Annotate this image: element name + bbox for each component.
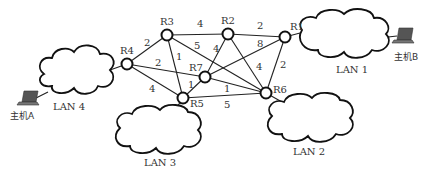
weight-r3-r5: 1 bbox=[176, 52, 182, 62]
host-label-hosta: 主机A bbox=[10, 112, 34, 121]
link-r3-r5 bbox=[167, 35, 183, 98]
link-r2-r1 bbox=[228, 34, 285, 37]
router-label-r1: R1 bbox=[290, 22, 304, 32]
router-label-r3: R3 bbox=[160, 17, 174, 27]
router-r7-icon bbox=[200, 72, 211, 83]
router-r1-icon bbox=[280, 32, 291, 43]
cloud-lan2-icon bbox=[268, 93, 353, 142]
weight-r2-r6: 4 bbox=[256, 62, 262, 72]
weight-r4-r3: 2 bbox=[144, 38, 150, 48]
cloud-lan4-icon bbox=[40, 45, 114, 93]
router-r2-icon bbox=[223, 29, 234, 40]
weight-r7-r6: 1 bbox=[224, 84, 230, 94]
weight-r3-r6: 5 bbox=[194, 41, 200, 51]
lan-label-lan2: LAN 2 bbox=[293, 147, 325, 157]
weight-r4-r5: 4 bbox=[149, 84, 155, 94]
weight-r7-r5: 1 bbox=[188, 80, 194, 90]
host-label-hostb: 主机B bbox=[394, 53, 418, 62]
weight-r2-r7: 4 bbox=[213, 44, 219, 54]
weight-r4-r7: 2 bbox=[155, 58, 161, 68]
router-label-r6: R6 bbox=[273, 85, 287, 95]
link-r2-r7 bbox=[205, 34, 228, 77]
link-lan1-hostb bbox=[388, 36, 397, 37]
network-diagram bbox=[0, 0, 428, 180]
cloud-lan1-icon bbox=[300, 9, 389, 58]
router-label-r2: R2 bbox=[221, 16, 235, 26]
router-label-r4: R4 bbox=[120, 46, 134, 56]
router-r5-icon bbox=[178, 93, 189, 104]
router-r6-icon bbox=[261, 88, 272, 99]
weight-r1-r6: 2 bbox=[280, 60, 286, 70]
weight-r3-r2: 4 bbox=[197, 19, 203, 29]
laptop-hostb-icon bbox=[392, 28, 414, 43]
clouds bbox=[40, 9, 389, 154]
cloud-lan3-icon bbox=[116, 105, 201, 154]
laptop-hosta-icon bbox=[17, 91, 39, 105]
router-r4-icon bbox=[122, 59, 133, 70]
link-r3-r2 bbox=[167, 34, 228, 35]
lan-label-lan3: LAN 3 bbox=[144, 158, 176, 168]
lan-label-lan4: LAN 4 bbox=[53, 102, 85, 112]
weight-r2-r1: 2 bbox=[257, 21, 263, 31]
router-r3-icon bbox=[162, 30, 173, 41]
router-label-r7: R7 bbox=[189, 63, 203, 73]
weight-r5-r6: 5 bbox=[224, 100, 230, 110]
router-label-r5: R5 bbox=[190, 99, 204, 109]
lan-label-lan1: LAN 1 bbox=[336, 65, 368, 75]
weight-r7-r1: 8 bbox=[257, 39, 263, 49]
